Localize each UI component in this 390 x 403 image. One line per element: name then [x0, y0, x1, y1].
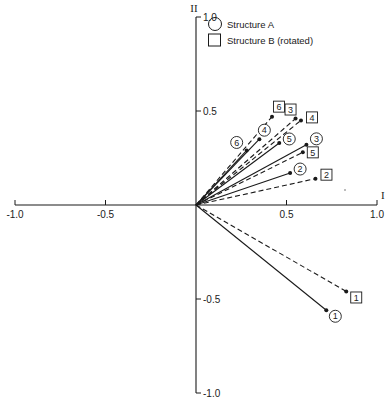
legend-label-structure-b: Structure B (rotated)	[227, 35, 313, 46]
point-label: 3	[314, 134, 319, 144]
y-tick-label: -0.5	[203, 294, 221, 305]
vector-endpoint-dot	[324, 308, 328, 312]
legend: Structure A Structure B (rotated)	[209, 18, 314, 47]
axes: -1.0-0.50.51.01.00.5-0.5-1.0III	[6, 2, 385, 399]
vector-endpoint-dot	[277, 141, 281, 145]
x-axis-label: I	[381, 189, 385, 201]
vector-endpoint-dot	[270, 115, 274, 119]
vector-endpoint-dot	[304, 143, 308, 147]
point-label: 2	[324, 170, 329, 180]
structure-b-vector-1	[196, 205, 346, 291]
x-tick-label: -0.5	[97, 209, 115, 220]
point-label: 1	[354, 293, 359, 303]
vector-chart: -1.0-0.50.51.01.00.5-0.5-1.0III Structur…	[0, 0, 390, 403]
point-label: 6	[234, 138, 239, 148]
point-label: 5	[287, 134, 292, 144]
vector-endpoint-dot	[294, 117, 298, 121]
vector-endpoint-dot	[313, 177, 317, 181]
x-tick-label: 1.0	[370, 209, 384, 220]
x-tick-label: 0.5	[280, 209, 294, 220]
legend-label-structure-a: Structure A	[227, 19, 275, 30]
y-axis-label: II	[190, 2, 198, 14]
stray-dot	[344, 189, 346, 191]
vector-endpoint-dot	[299, 118, 303, 122]
vectors	[196, 115, 348, 313]
point-label: 4	[262, 125, 267, 135]
point-label: 3	[288, 105, 293, 115]
point-label: 1	[333, 311, 338, 321]
vector-endpoint-dot	[257, 137, 261, 141]
vector-endpoint-dot	[301, 150, 305, 154]
point-label: 5	[310, 148, 315, 158]
point-label: 4	[309, 113, 314, 123]
structure-b-vector-5	[196, 152, 303, 205]
y-tick-label: -1.0	[203, 388, 221, 399]
vector-endpoint-dot	[288, 171, 292, 175]
legend-square-marker	[209, 34, 221, 46]
x-tick-label: -1.0	[6, 209, 24, 220]
vector-endpoint-dot	[344, 289, 348, 293]
y-tick-label: 0.5	[203, 106, 217, 117]
vector-endpoint-dot	[245, 148, 249, 152]
structure-b-vector-4	[196, 120, 301, 205]
point-label: 6	[277, 102, 282, 112]
point-label: 2	[298, 164, 303, 174]
structure-b-vector-3	[196, 119, 296, 205]
